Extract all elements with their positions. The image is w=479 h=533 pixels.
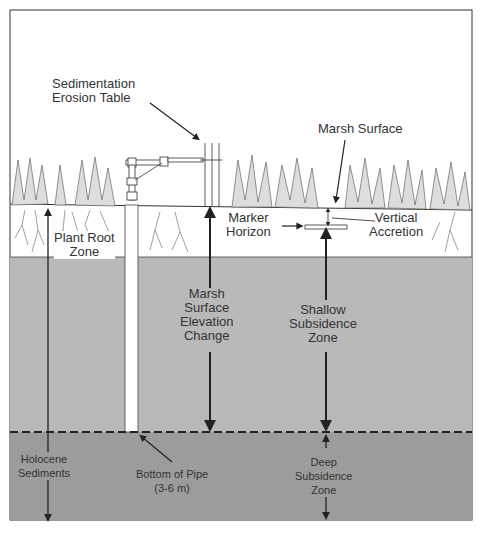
label-marsh-surface-elevation-change: Marsh Surface Elevation Change [180,287,233,343]
label-line: Zone [54,245,115,259]
label-line: Zone [295,483,353,497]
label-line: (3-6 m) [136,481,208,495]
label-line: Accretion [369,225,423,239]
label-line: Surface [180,301,233,315]
label-bottom-of-pipe: Bottom of Pipe (3-6 m) [136,467,208,495]
label-line: Marker [226,211,271,225]
label-sedimentation-erosion-table: Sedimentation Erosion Table [52,77,135,105]
label-marsh-surface: Marsh Surface [318,122,403,136]
label-line: Erosion Table [52,91,135,105]
label-line: Elevation [180,315,233,329]
label-holocene-sediments: Holocene Sediments [18,452,70,480]
label-line: Marsh [180,287,233,301]
label-deep-subsidence-zone: Deep Subsidence Zone [295,455,353,497]
set-pipe [125,205,138,432]
label-line: Bottom of Pipe [136,467,208,481]
label-line: Zone [289,331,357,345]
label-marker-horizon: Marker Horizon [226,211,271,239]
label-line: Sediments [18,466,70,480]
label-line: Sedimentation [52,77,135,91]
label-line: Horizon [226,225,271,239]
label-line: Holocene [18,452,70,466]
label-vertical-accretion: Vertical Accretion [369,211,423,239]
shallow-sediment-layer [10,257,472,432]
label-line: Deep [295,455,353,469]
deep-sediment-layer [10,432,472,520]
label-shallow-subsidence-zone: Shallow Subsidence Zone [289,303,357,345]
label-plant-root-zone: Plant Root Zone [54,231,115,259]
label-line: Plant Root [54,231,115,245]
label-line: Shallow [289,303,357,317]
label-line: Vertical [369,211,423,225]
label-line: Subsidence [295,469,353,483]
marker-horizon-plate [305,225,347,229]
label-line: Subsidence [289,317,357,331]
label-line: Change [180,329,233,343]
